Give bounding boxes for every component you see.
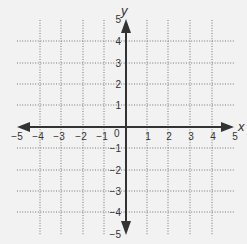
y-tick-n2: −2: [110, 165, 122, 176]
y-tick-p2: 2: [115, 79, 121, 90]
x-tick-p4: 4: [210, 131, 216, 142]
x-tick-n4: −4: [32, 131, 44, 142]
x-tick-p1: 1: [145, 131, 151, 142]
coordinate-plane: x y 0 −5 −4 −3 −2 −1 1 2 3 4 5 5 4 3 2 1…: [0, 0, 247, 244]
y-tick-n3: −3: [110, 186, 122, 197]
y-tick-n5: −5: [110, 229, 122, 240]
x-tick-n3: −3: [53, 131, 65, 142]
x-tick-labels: −5 −4 −3 −2 −1 1 2 3 4 5: [11, 131, 238, 142]
x-tick-n1: −1: [96, 131, 108, 142]
y-tick-p3: 3: [115, 58, 121, 69]
y-tick-n1: −1: [110, 143, 122, 154]
y-tick-p4: 4: [115, 36, 121, 47]
x-tick-p2: 2: [166, 131, 172, 142]
origin-label: 0: [114, 128, 120, 139]
x-tick-n5: −5: [11, 131, 23, 142]
x-tick-n2: −2: [75, 131, 87, 142]
y-tick-n4: −4: [110, 207, 122, 218]
y-axis-up-arrow-icon: [121, 19, 131, 33]
y-tick-p1: 1: [115, 100, 121, 111]
y-tick-p5: 5: [115, 14, 121, 25]
x-axis-label: x: [237, 119, 245, 134]
y-axis-down-arrow-icon: [121, 221, 131, 235]
x-tick-p5: 5: [232, 131, 238, 142]
x-tick-p3: 3: [188, 131, 194, 142]
y-axis-label: y: [120, 3, 129, 18]
